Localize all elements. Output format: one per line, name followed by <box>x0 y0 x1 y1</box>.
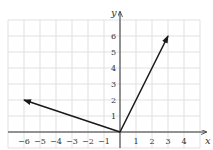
x-tick-label: −5 <box>34 137 46 146</box>
x-tick-label: −6 <box>18 137 30 146</box>
x-tick-label: 1 <box>133 137 138 146</box>
x-tick-label: −4 <box>50 137 62 146</box>
x-tick-label: 2 <box>149 137 154 146</box>
y-tick-label: 3 <box>111 80 116 89</box>
y-tick-label: 1 <box>111 112 116 121</box>
x-tick-label: −3 <box>66 137 78 146</box>
x-tick-label: −1 <box>98 137 110 146</box>
vector-chart: −6−5−4−3−2−11234123456 x y <box>0 0 213 150</box>
y-axis-label: y <box>110 7 117 18</box>
x-tick-label: 3 <box>165 137 170 146</box>
y-tick-label: 4 <box>111 64 116 73</box>
x-tick-label: −2 <box>82 137 94 146</box>
y-tick-label: 2 <box>111 96 116 105</box>
x-tick-label: 4 <box>181 137 186 146</box>
grid-lines <box>8 20 200 148</box>
y-tick-label: 6 <box>111 32 116 41</box>
chart-canvas: −6−5−4−3−2−11234123456 x y <box>0 0 213 150</box>
y-tick-label: 5 <box>111 48 116 57</box>
x-axis-label: x <box>205 135 211 146</box>
